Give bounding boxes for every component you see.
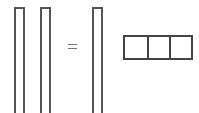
row-cell-2 — [147, 37, 169, 58]
column-vector-2 — [40, 7, 51, 113]
row-cell-1 — [125, 37, 147, 58]
row-cell-3 — [169, 37, 191, 58]
column-vector-1 — [14, 7, 25, 113]
column-vector-3 — [92, 7, 103, 113]
equals-sign — [68, 44, 77, 49]
row-vector — [123, 35, 193, 60]
